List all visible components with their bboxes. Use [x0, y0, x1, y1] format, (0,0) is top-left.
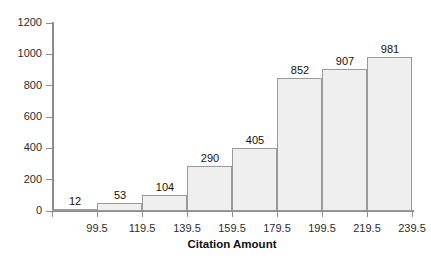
bar-value-label: 852	[278, 64, 322, 76]
bar-value-label: 405	[233, 134, 277, 146]
y-axis-tick-label: 0	[36, 205, 42, 216]
bar-value-label: 907	[323, 55, 367, 67]
y-axis-tick-label: 400	[24, 142, 42, 153]
bar-value-label: 104	[143, 181, 187, 193]
x-axis-tick	[232, 212, 233, 217]
x-axis-tick	[412, 212, 413, 217]
x-axis-tick	[97, 212, 98, 217]
y-axis-tick-label: 1000	[18, 48, 42, 59]
x-axis-title: Citation Amount	[52, 238, 412, 250]
x-axis-tick	[187, 212, 188, 217]
histogram-bar	[277, 78, 322, 211]
x-axis-tick	[367, 212, 368, 217]
x-axis-tick	[142, 212, 143, 217]
x-axis-tick	[322, 212, 323, 217]
bar-value-label: 53	[98, 189, 142, 201]
y-axis-tick-label: 800	[24, 80, 42, 91]
histogram-bar	[322, 69, 367, 211]
bar-value-label: 12	[53, 195, 97, 207]
histogram-bar	[187, 166, 232, 211]
histogram-bar	[232, 148, 277, 211]
y-axis-tick-label: 600	[24, 111, 42, 122]
x-axis-tick	[52, 212, 53, 217]
histogram-chart: 020040060080010001200 125310429040585290…	[0, 0, 431, 269]
x-axis-tick	[277, 212, 278, 217]
histogram-bar	[142, 195, 187, 211]
histogram-bar	[367, 57, 412, 211]
bar-value-label: 981	[368, 43, 412, 55]
x-axis-tick-label: 239.5	[385, 222, 431, 234]
histogram-bar	[52, 209, 97, 211]
plot-area	[52, 23, 412, 211]
y-axis-tick-label: 1200	[18, 17, 42, 28]
bar-value-label: 290	[188, 152, 232, 164]
histogram-bar	[97, 203, 142, 211]
y-axis-tick-label: 200	[24, 174, 42, 185]
